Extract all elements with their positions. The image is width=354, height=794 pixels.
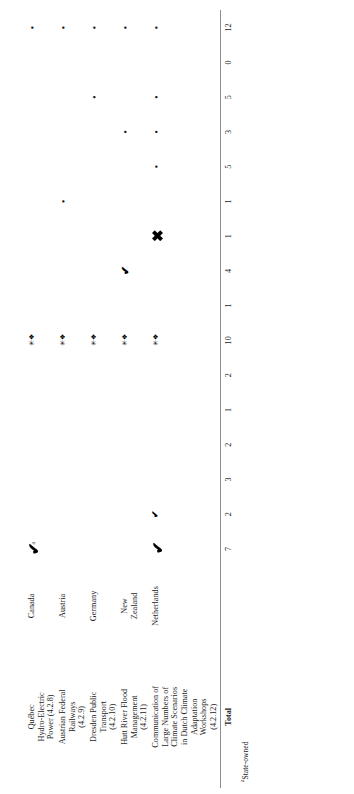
total-value: 1 [220, 219, 234, 254]
empty-cell [90, 478, 98, 480]
table-container: Québec Hydro-Electric Power (4.2.8)Canad… [0, 0, 354, 794]
empty-cell [152, 61, 160, 63]
mark-dot: ● [92, 26, 98, 29]
empty-cell [28, 478, 36, 480]
data-cell [26, 114, 57, 149]
empty-cell [121, 200, 129, 202]
data-cell [57, 288, 88, 323]
mark-cluster: ✳❖ [91, 334, 98, 346]
empty-cell [121, 409, 129, 411]
data-cell [88, 114, 119, 149]
case-study-label: Québec Hydro-Electric Power (4.2.8) [26, 646, 57, 788]
empty-cell [90, 444, 98, 446]
empty-cell [90, 61, 98, 63]
total-label: Total [220, 646, 234, 788]
table-row: Québec Hydro-Electric Power (4.2.8)Canad… [26, 10, 57, 788]
empty-cell [90, 131, 98, 133]
data-cell [88, 184, 119, 219]
data-cell [26, 288, 57, 323]
data-cell: ● [88, 10, 119, 45]
empty-cell [121, 61, 129, 63]
data-cell: ● [57, 184, 88, 219]
empty-cell [121, 235, 129, 237]
empty-cell [90, 513, 98, 515]
case-study-table: Québec Hydro-Electric Power (4.2.8)Canad… [26, 10, 234, 788]
data-cell [57, 462, 88, 497]
data-cell [26, 149, 57, 184]
data-cell [150, 45, 220, 80]
empty-cell [121, 374, 129, 376]
rotated-page-inner: Québec Hydro-Electric Power (4.2.8)Canad… [0, 0, 354, 794]
mark-cluster: ✳❖ [60, 334, 67, 346]
data-cell [88, 219, 119, 254]
data-cell: ● [57, 10, 88, 45]
empty-cell [59, 374, 67, 376]
empty-cell [59, 513, 67, 515]
mark-cluster: ✳❖ [29, 334, 36, 346]
data-cell [26, 184, 57, 219]
empty-cell [28, 270, 36, 272]
table-row: Dresden Public Transport (4.2.10)Germany… [88, 10, 119, 788]
data-cell [57, 114, 88, 149]
mark-dot: ● [154, 130, 160, 133]
data-cell [150, 184, 220, 219]
data-cell [119, 531, 150, 566]
data-cell: ✳❖ [88, 323, 119, 358]
empty-cell [152, 478, 160, 480]
data-cell [119, 149, 150, 184]
mark-dot: ● [61, 200, 67, 203]
data-cell [150, 427, 220, 462]
empty-cell [152, 305, 160, 307]
data-cell [88, 358, 119, 393]
data-cell [88, 149, 119, 184]
total-value: 4 [220, 253, 234, 288]
empty-cell [28, 513, 36, 515]
data-cell: ✳❖ [119, 323, 150, 358]
data-cell: ● [150, 114, 220, 149]
data-cell [26, 80, 57, 115]
data-cell: ✔ [119, 253, 150, 288]
data-cell [119, 497, 150, 532]
empty-cell [121, 513, 129, 515]
mark-dot: ● [154, 95, 160, 98]
data-cell [119, 462, 150, 497]
mark-dot: ● [61, 26, 67, 29]
mark-small-blob: ✔ [151, 510, 160, 518]
empty-cell [28, 131, 36, 133]
data-cell [119, 358, 150, 393]
mark-dot: ● [30, 26, 36, 29]
empty-cell [152, 200, 160, 202]
mark-dot: ● [154, 165, 160, 168]
empty-cell [121, 548, 129, 550]
data-cell [150, 288, 220, 323]
data-cell: ✳❖ [26, 323, 57, 358]
empty-cell [28, 200, 36, 202]
data-cell: ✔ [150, 497, 220, 532]
table-row: Communication of Large Numbers of Climat… [150, 10, 220, 788]
empty-cell [59, 270, 67, 272]
data-cell: ● [150, 10, 220, 45]
data-cell [88, 497, 119, 532]
data-cell [119, 80, 150, 115]
data-cell [26, 253, 57, 288]
data-cell [150, 358, 220, 393]
table-footnote: aState-owned [239, 10, 250, 788]
empty-cell [59, 61, 67, 63]
data-cell [88, 531, 119, 566]
empty-cell [28, 166, 36, 168]
data-cell [26, 219, 57, 254]
mark-dot: ● [154, 26, 160, 29]
empty-cell [90, 270, 98, 272]
mark-blob: ✔ [27, 544, 42, 555]
empty-cell [59, 235, 67, 237]
data-cell: ● [119, 10, 150, 45]
case-study-label: Austrian Federal Railways (4.2.9) [57, 646, 88, 788]
data-cell [26, 358, 57, 393]
empty-cell [152, 270, 160, 272]
country-label: Germany [88, 566, 119, 645]
empty-cell [90, 166, 98, 168]
data-cell [88, 45, 119, 80]
empty-cell [28, 96, 36, 98]
total-spacer [220, 566, 234, 645]
case-study-label: Dresden Public Transport (4.2.10) [88, 646, 119, 788]
